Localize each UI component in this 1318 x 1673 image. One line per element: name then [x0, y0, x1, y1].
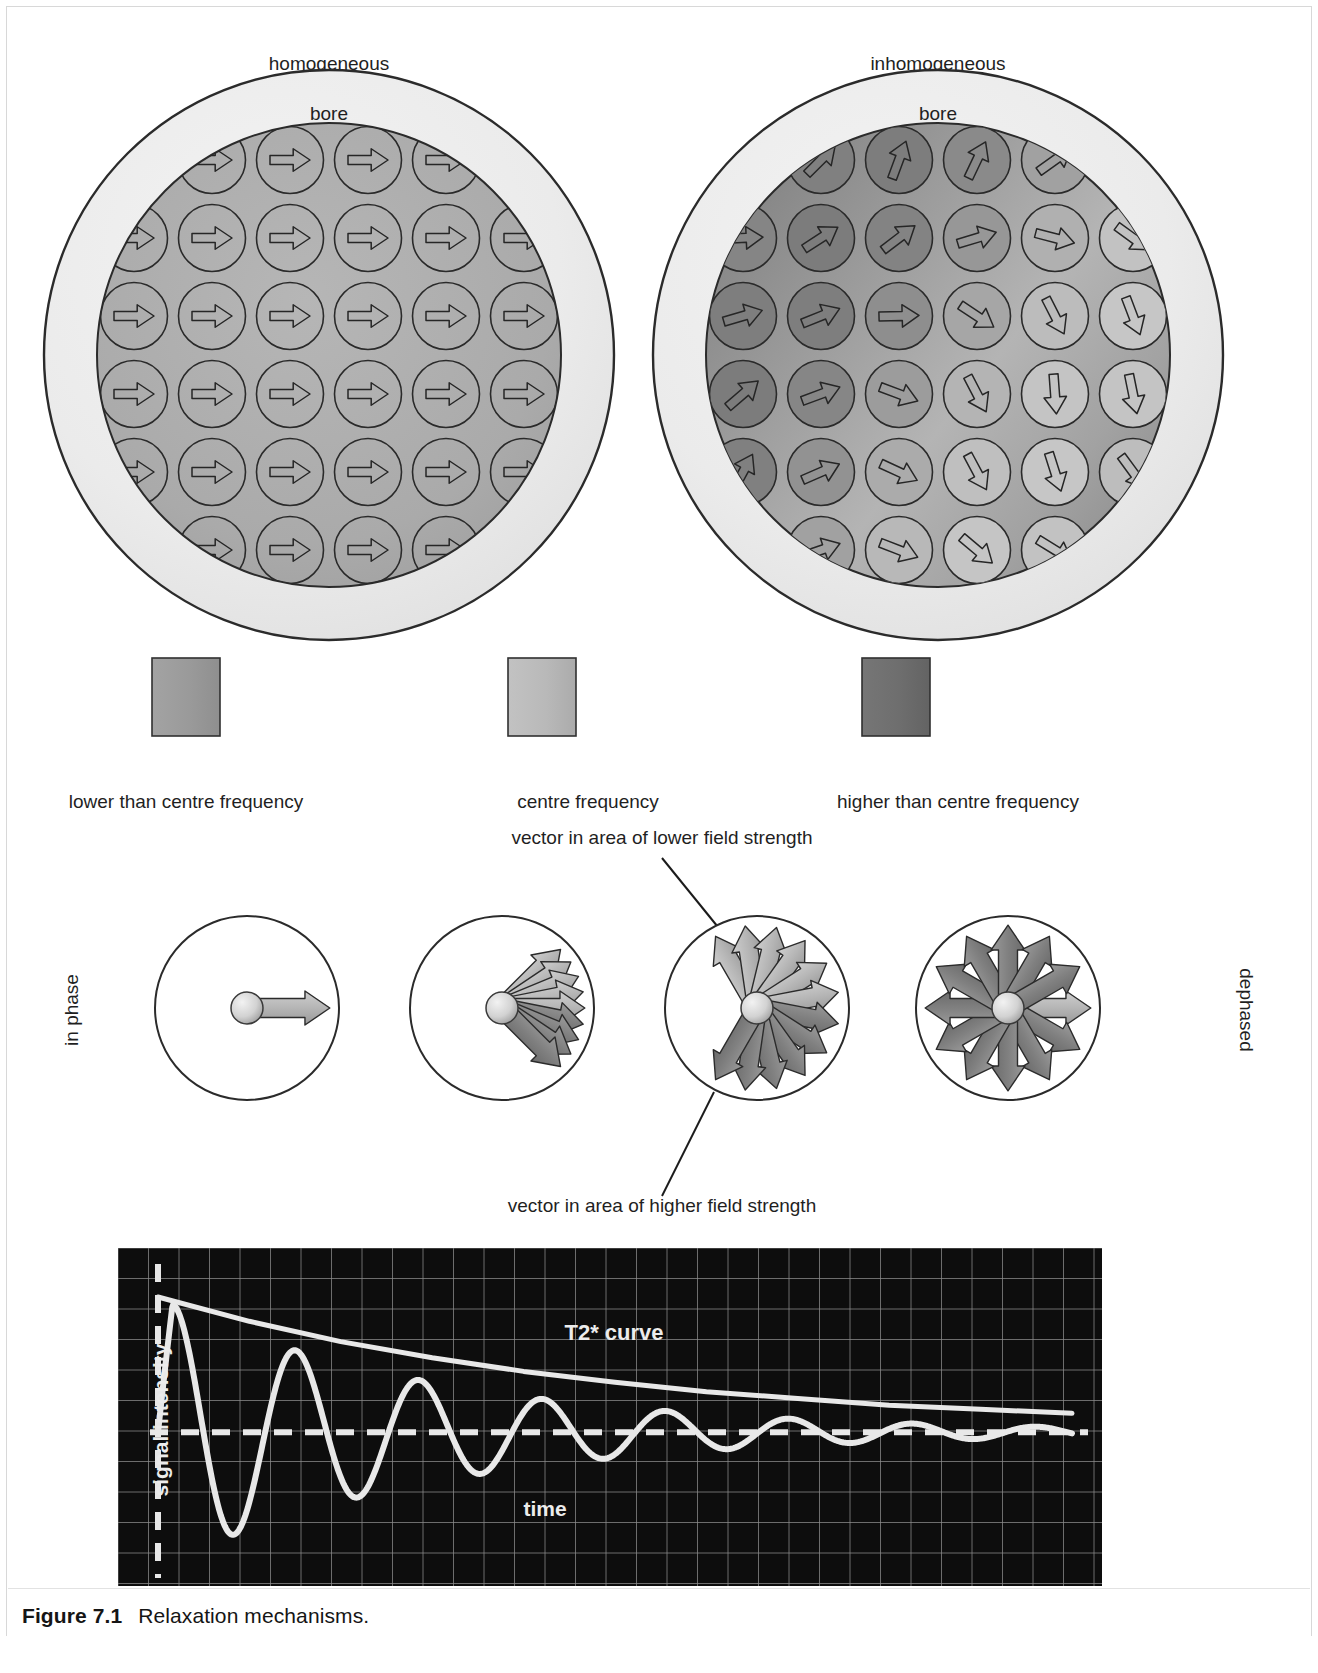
callout-leader-line-bottom	[662, 1092, 714, 1196]
legend-item-centre: centre frequency	[508, 658, 659, 812]
spin-cell	[944, 361, 1011, 428]
spin-cell	[866, 127, 933, 194]
frequency-legend: lower than centre frequency centre frequ…	[69, 658, 1080, 812]
legend-swatch-higher	[862, 658, 930, 736]
vector-stage-1	[155, 916, 339, 1100]
spin-cell	[710, 361, 777, 428]
sample-circle-left	[97, 123, 561, 587]
spin-cell	[710, 283, 777, 350]
spin-cell	[1022, 283, 1089, 350]
bore-label-right: bore	[919, 103, 957, 124]
caption-divider	[8, 1588, 1310, 1589]
spin-cell	[866, 517, 933, 584]
spin-cell	[866, 205, 933, 272]
vector-origin-ball	[992, 992, 1024, 1024]
spin-cell	[944, 127, 1011, 194]
legend-label-lower: lower than centre frequency	[69, 791, 304, 812]
relaxation-mechanisms-figure: homogeneous bore inhomogeneous bore lowe…	[0, 0, 1318, 1673]
spin-cell	[788, 283, 855, 350]
bore-panel-homogeneous: homogeneous bore	[44, 53, 614, 640]
legend-swatch-lower	[152, 658, 220, 736]
legend-item-lower: lower than centre frequency	[69, 658, 304, 812]
spin-cell	[866, 439, 933, 506]
spin-cell	[944, 517, 1011, 584]
callout-leader-line-top	[662, 858, 722, 932]
figure-caption-text: Relaxation mechanisms.	[138, 1604, 369, 1627]
figure-number: Figure 7.1	[22, 1604, 122, 1627]
legend-item-higher: higher than centre frequency	[837, 658, 1079, 812]
vector-stage-3	[665, 916, 849, 1100]
vector-dephasing-panel: vector in area of lower field strength v…	[61, 827, 1257, 1216]
vector-panel-label-dephased: dephased	[1236, 968, 1257, 1051]
vector-origin-ball	[741, 992, 773, 1024]
spin-cell	[1022, 439, 1089, 506]
spin-cell	[944, 205, 1011, 272]
bore-panel-inhomogeneous: inhomogeneous bore	[653, 53, 1223, 640]
vector-origin-ball	[486, 992, 518, 1024]
spin-cell	[944, 283, 1011, 350]
chart-x-axis-label: time	[523, 1497, 566, 1520]
fid-decay-chart: signal intensity time T2* curve	[118, 1248, 1102, 1586]
chart-annotation-t2star: T2* curve	[564, 1320, 663, 1345]
bore-label-left: bore	[310, 103, 348, 124]
figure-caption: Figure 7.1Relaxation mechanisms.	[22, 1604, 369, 1628]
spin-cell	[1022, 205, 1089, 272]
spin-cell	[1022, 361, 1089, 428]
vector-stage-2	[410, 916, 594, 1100]
sample-circle-right	[706, 123, 1170, 587]
vector-stage-4	[916, 916, 1100, 1100]
legend-label-higher: higher than centre frequency	[837, 791, 1079, 812]
legend-label-centre: centre frequency	[517, 791, 659, 812]
spin-cell	[866, 283, 933, 350]
spin-cell	[866, 361, 933, 428]
vector-panel-label-in-phase: in phase	[61, 974, 82, 1046]
spin-cell	[1100, 283, 1167, 350]
callout-label-higher-field: vector in area of higher field strength	[508, 1195, 816, 1216]
figure-page: homogeneous bore inhomogeneous bore lowe…	[0, 0, 1318, 1673]
spin-cell	[788, 361, 855, 428]
spin-cell	[944, 439, 1011, 506]
spin-cell	[1100, 361, 1167, 428]
callout-label-lower-field: vector in area of lower field strength	[512, 827, 813, 848]
chart-y-axis-label: signal intensity	[149, 1343, 172, 1496]
spin-cell	[788, 205, 855, 272]
vector-origin-ball	[231, 992, 263, 1024]
spin-cell	[788, 439, 855, 506]
legend-swatch-centre	[508, 658, 576, 736]
